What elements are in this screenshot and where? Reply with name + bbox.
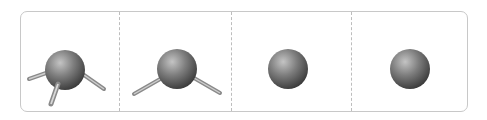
linear-triple-bond-molecule-icon [364,49,459,89]
molecule-drawings [0,0,487,120]
linear-double-bond-molecule-icon [240,49,338,89]
trigonal-planar-molecule-icon [134,21,220,94]
tetrahedral-molecule-icon [29,22,104,104]
